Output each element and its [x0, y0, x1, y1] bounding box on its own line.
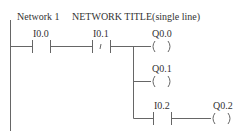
coil-q0-2[interactable]	[213, 113, 230, 124]
contact-i0-0[interactable]	[33, 40, 51, 53]
coil-q0-0[interactable]	[153, 41, 170, 52]
coil-q0-1[interactable]	[153, 76, 170, 87]
contact-i0-1-nc[interactable]	[93, 40, 111, 53]
contact-i0-2[interactable]	[154, 112, 172, 125]
ladder-diagram	[0, 0, 240, 131]
